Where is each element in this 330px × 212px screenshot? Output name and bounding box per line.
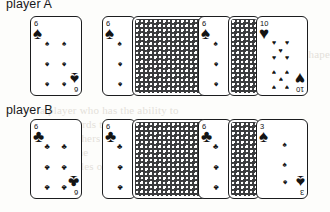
clubs-pip-icon: ♣ [61,163,66,171]
spades-pip-icon: ♠ [282,161,286,169]
spades-pip-icon: ♠ [118,80,122,88]
clubs-pip-icon: ♣ [44,163,49,171]
hearts-pip-icon: ♥ [285,84,289,91]
spades-pip-icon: ♠ [45,60,49,68]
clubs-pip-icon: ♣ [213,163,218,171]
card-pip-field: ♣♣♣ [199,120,231,198]
spades-pip-icon: ♠ [62,80,66,88]
hearts-pip-icon: ♥ [285,69,289,76]
clubs-pip-icon: ♣ [117,183,122,191]
hearts-pip-icon: ♥ [285,39,289,46]
card-back-pattern [231,19,257,93]
playing-card-6-spades[interactable]: 6♠♠♠♠ [198,16,232,96]
playing-card-6-clubs[interactable]: 6♣♣♣♣ [198,119,232,199]
card-pip-field: ♠♠♠♠♠♠ [31,17,81,95]
spades-pip-icon: ♠ [214,60,218,68]
clubs-pip-icon: ♣ [213,143,218,151]
hearts-pip-icon: ♥ [278,76,282,83]
card-back-pattern [231,122,257,196]
player-label-1: player B [6,103,53,117]
player-label-0: player A [6,0,52,11]
spades-pip-icon: ♠ [214,80,218,88]
hearts-pip-icon: ♥ [278,47,282,54]
hearts-pip-icon: ♥ [272,54,276,61]
hearts-pip-icon: ♥ [272,39,276,46]
playing-card-10-hearts[interactable]: 10♥10♥♥♥♥♥♥♥♥♥♥♥ [256,16,308,96]
card-pip-field: ♠♠♠ [103,17,135,95]
spades-pip-icon: ♠ [118,40,122,48]
card-pip-field: ♣♣♣♣♣♣ [31,120,81,198]
hearts-pip-icon: ♥ [272,84,276,91]
bleed-text-4: a player who has the ability to [40,104,179,116]
spades-pip-icon: ♠ [45,40,49,48]
spades-pip-icon: ♠ [282,178,286,186]
card-pip-field: ♣♣♣ [103,120,135,198]
spades-pip-icon: ♠ [282,141,286,149]
playing-card-6-spades[interactable]: 6♠6♠♠♠♠♠♠♠ [30,16,82,96]
clubs-pip-icon: ♣ [61,183,66,191]
hearts-pip-icon: ♥ [285,54,289,61]
spades-pip-icon: ♠ [214,40,218,48]
spades-pip-icon: ♠ [118,60,122,68]
hearts-pip-icon: ♥ [272,69,276,76]
clubs-pip-icon: ♣ [117,143,122,151]
clubs-pip-icon: ♣ [117,163,122,171]
card-pip-field: ♠♠♠ [257,120,307,198]
spades-pip-icon: ♠ [62,40,66,48]
clubs-pip-icon: ♣ [44,183,49,191]
card-pip-field: ♥♥♥♥♥♥♥♥♥♥ [257,17,307,95]
playing-card-6-clubs[interactable]: 6♣6♣♣♣♣♣♣♣ [30,119,82,199]
spades-pip-icon: ♠ [45,80,49,88]
clubs-pip-icon: ♣ [61,143,66,151]
playing-card-6-spades[interactable]: 6♠♠♠♠ [102,16,136,96]
spades-pip-icon: ♠ [62,60,66,68]
playing-card-6-clubs[interactable]: 6♣♣♣♣ [102,119,136,199]
card-pip-field: ♠♠♠ [199,17,231,95]
clubs-pip-icon: ♣ [44,143,49,151]
clubs-pip-icon: ♣ [213,183,218,191]
playing-card-3-spades[interactable]: 3♠3♠♠♠♠ [256,119,308,199]
